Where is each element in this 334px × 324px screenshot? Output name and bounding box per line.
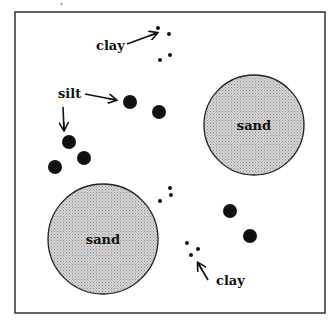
clay-particle [158,58,162,62]
sand-label-top: sand [237,118,271,133]
clay-particle [189,253,193,257]
silt-particle [243,229,257,243]
sand-grain-bottom: sand [48,184,158,294]
clay-particle [185,241,189,245]
silt-label: silt [58,86,81,101]
silt-particle [77,151,91,165]
silt-particle [48,160,62,174]
soil-particle-diagram: , sand sand clay silt clay [0,0,334,324]
silt-particle [223,204,237,218]
clay-particle [168,53,172,57]
clay-particle [167,32,171,36]
sand-label-bottom: sand [86,232,120,247]
clay-particle [169,193,173,197]
silt-particle [62,135,76,149]
sand-grain-top: sand [204,75,304,175]
clay-particle [168,186,172,190]
silt-particle [152,105,166,119]
clay-particle [156,26,160,30]
clay-particle [158,199,162,203]
arrow-icon [63,107,64,130]
caption-fragment: , [60,0,63,6]
clay-label-bottom: clay [216,273,245,288]
clay-particle [196,247,200,251]
silt-particle [123,95,137,109]
clay-label-top: clay [96,38,125,53]
